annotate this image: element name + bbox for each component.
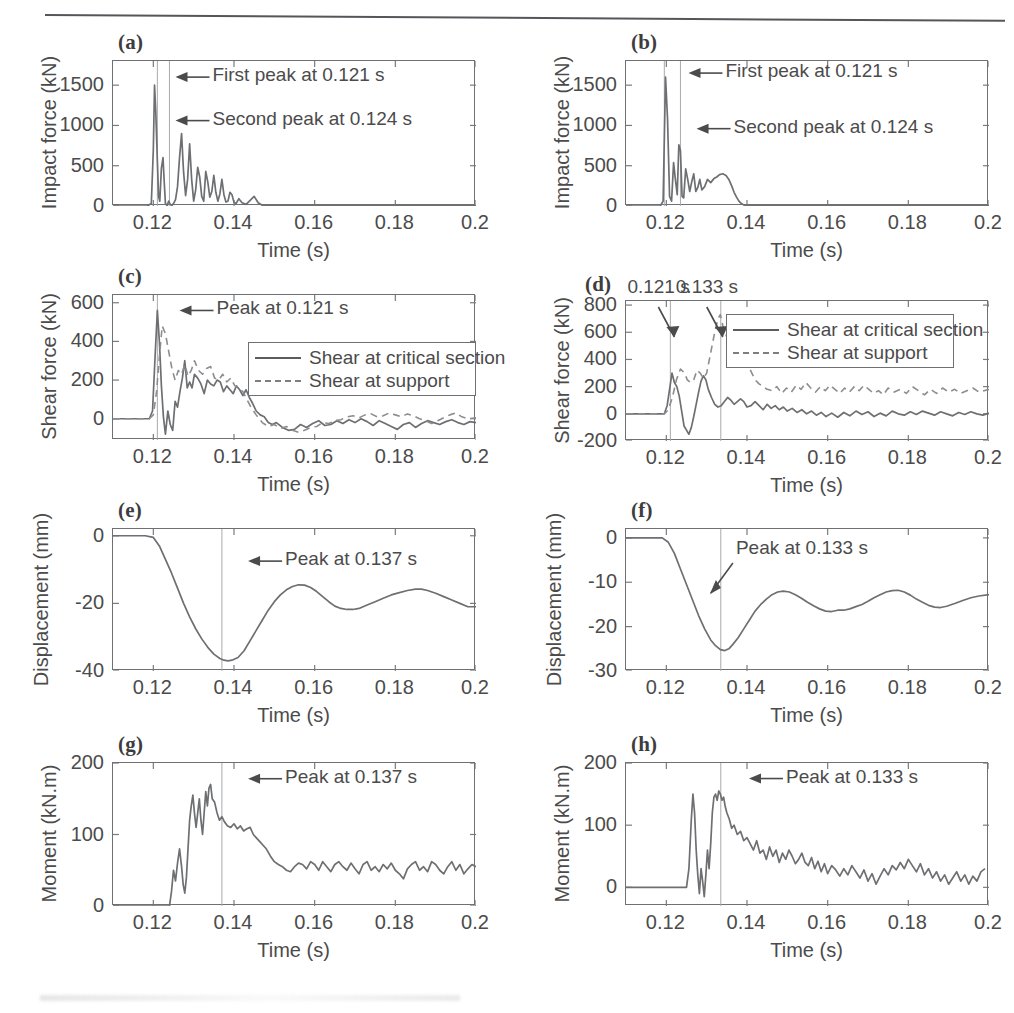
ytick-b-0: 0 bbox=[606, 194, 617, 217]
xtick-a-2: 0.16 bbox=[294, 211, 333, 234]
series-a-0 bbox=[113, 85, 476, 206]
yaxis-label-a: Impact force (kN) bbox=[38, 55, 61, 208]
panel-label-g: (g) bbox=[118, 732, 143, 757]
xtick-e-0: 0.12 bbox=[133, 676, 172, 699]
legend-label-d-1: Shear at support bbox=[787, 342, 927, 364]
xtick-e-1: 0.14 bbox=[214, 676, 253, 699]
panel-label-e: (e) bbox=[118, 498, 142, 523]
xaxis-label-c: Time (s) bbox=[257, 473, 330, 496]
xaxis-label-d: Time (s) bbox=[770, 474, 843, 497]
xaxis-label-e: Time (s) bbox=[257, 704, 330, 727]
ytick-g-1: 100 bbox=[71, 822, 104, 845]
xtick-e-2: 0.16 bbox=[294, 676, 333, 699]
xtick-d-4: 0.2 bbox=[974, 446, 1002, 469]
page-artifact-smudge bbox=[40, 995, 460, 1001]
xtick-b-2: 0.16 bbox=[807, 211, 846, 234]
ytick-a-2: 1000 bbox=[60, 113, 105, 136]
legend-entry-d-0: Shear at critical section bbox=[733, 318, 945, 341]
xtick-g-2: 0.16 bbox=[294, 911, 333, 934]
annotation-d-1: 0.133 s bbox=[676, 276, 738, 298]
yaxis-label-f: Displacement (mm) bbox=[543, 512, 566, 685]
ytick-b-3: 1500 bbox=[573, 73, 618, 96]
xtick-f-4: 0.2 bbox=[974, 676, 1002, 699]
xtick-g-3: 0.18 bbox=[375, 911, 414, 934]
ytick-a-1: 500 bbox=[71, 153, 104, 176]
xtick-d-1: 0.14 bbox=[727, 446, 766, 469]
ytick-d-3: 400 bbox=[584, 347, 617, 370]
xtick-d-2: 0.16 bbox=[807, 446, 846, 469]
ytick-c-2: 400 bbox=[71, 329, 104, 352]
xtick-h-1: 0.14 bbox=[727, 911, 766, 934]
ytick-h-0: 0 bbox=[606, 875, 617, 898]
annotation-b-1: Second peak at 0.124 s bbox=[734, 116, 934, 138]
series-d-0 bbox=[626, 373, 989, 434]
xtick-f-0: 0.12 bbox=[646, 676, 685, 699]
xtick-b-1: 0.14 bbox=[727, 211, 766, 234]
ytick-a-3: 1500 bbox=[60, 73, 105, 96]
ytick-e-0: 0 bbox=[93, 523, 104, 546]
xtick-g-1: 0.14 bbox=[214, 911, 253, 934]
legend-label-c-0: Shear at critical section bbox=[309, 347, 505, 369]
xtick-g-0: 0.12 bbox=[133, 911, 172, 934]
xtick-h-4: 0.2 bbox=[974, 911, 1002, 934]
xtick-d-0: 0.12 bbox=[646, 446, 685, 469]
legend-label-d-0: Shear at critical section bbox=[787, 319, 983, 341]
annotation-h-0: Peak at 0.133 s bbox=[786, 766, 918, 788]
ytick-b-1: 500 bbox=[584, 153, 617, 176]
ytick-d-2: 200 bbox=[584, 374, 617, 397]
yaxis-label-b: Impact force (kN) bbox=[551, 55, 574, 208]
xtick-c-2: 0.16 bbox=[294, 445, 333, 468]
ytick-h-1: 100 bbox=[584, 813, 617, 836]
legend-line-dashed bbox=[255, 380, 301, 382]
xaxis-label-h: Time (s) bbox=[770, 939, 843, 962]
yaxis-label-h: Moment (kN.m) bbox=[551, 764, 574, 902]
legend-swatch-solid-icon bbox=[733, 324, 779, 336]
xtick-e-4: 0.2 bbox=[461, 676, 489, 699]
multi-panel-figure: (a)0500100015000.120.140.160.180.2Time (… bbox=[0, 0, 1014, 1013]
ytick-c-0: 0 bbox=[93, 406, 104, 429]
legend-entry-d-1: Shear at support bbox=[733, 341, 945, 364]
legend-swatch-dashed-icon bbox=[255, 375, 301, 387]
yaxis-label-c: Shear force (kN) bbox=[38, 293, 61, 440]
ytick-c-3: 600 bbox=[71, 290, 104, 313]
annotation-b-0: First peak at 0.121 s bbox=[725, 60, 897, 82]
panel-label-f: (f) bbox=[631, 498, 653, 523]
legend-entry-c-0: Shear at critical section bbox=[255, 346, 467, 369]
ytick-f-3: -30 bbox=[588, 659, 617, 682]
legend-line-solid bbox=[255, 357, 301, 359]
ytick-f-1: -10 bbox=[588, 570, 617, 593]
xtick-d-3: 0.18 bbox=[888, 446, 927, 469]
xtick-b-0: 0.12 bbox=[646, 211, 685, 234]
series-g-0 bbox=[113, 784, 476, 906]
ytick-a-0: 0 bbox=[93, 194, 104, 217]
xtick-f-3: 0.18 bbox=[888, 676, 927, 699]
panel-label-h: (h) bbox=[631, 732, 657, 757]
ytick-g-2: 200 bbox=[71, 751, 104, 774]
annotation-a-0: First peak at 0.121 s bbox=[212, 64, 384, 86]
ytick-g-0: 0 bbox=[93, 894, 104, 917]
ytick-d-5: 800 bbox=[584, 293, 617, 316]
annotation-g-0: Peak at 0.137 s bbox=[285, 766, 417, 788]
xaxis-label-b: Time (s) bbox=[770, 239, 843, 262]
legend-line-solid bbox=[733, 329, 779, 331]
annotation-c-0: Peak at 0.121 s bbox=[217, 297, 349, 319]
ytick-f-2: -20 bbox=[588, 614, 617, 637]
annotation-e-0: Peak at 0.137 s bbox=[285, 548, 417, 570]
annotation-f-0: Peak at 0.133 s bbox=[736, 537, 868, 559]
yaxis-label-g: Moment (kN.m) bbox=[38, 764, 61, 902]
ytick-c-1: 200 bbox=[71, 368, 104, 391]
yaxis-label-e: Displacement (mm) bbox=[30, 512, 53, 685]
xaxis-label-a: Time (s) bbox=[257, 239, 330, 262]
legend-swatch-dashed-icon bbox=[733, 347, 779, 359]
xtick-a-4: 0.2 bbox=[461, 211, 489, 234]
ytick-e-2: -40 bbox=[75, 659, 104, 682]
xtick-g-4: 0.2 bbox=[461, 911, 489, 934]
xtick-h-2: 0.16 bbox=[807, 911, 846, 934]
ytick-d-0: -200 bbox=[577, 429, 617, 452]
xtick-a-0: 0.12 bbox=[133, 211, 172, 234]
legend-line-dashed bbox=[733, 352, 779, 354]
ytick-b-2: 1000 bbox=[573, 113, 618, 136]
xtick-a-3: 0.18 bbox=[375, 211, 414, 234]
series-h-0 bbox=[626, 791, 985, 897]
xtick-c-4: 0.2 bbox=[461, 445, 489, 468]
